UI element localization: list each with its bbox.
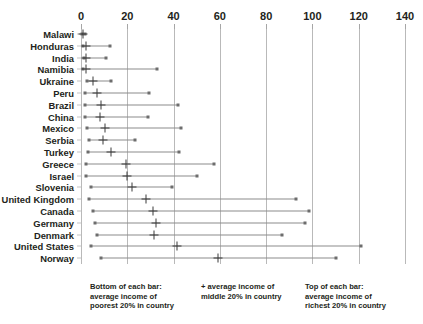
gridline-100 <box>312 28 313 264</box>
x-tick-mark-40 <box>174 24 175 29</box>
x-tick-label-0: 0 <box>78 10 84 22</box>
marker-middle <box>81 41 90 50</box>
marker-richest <box>177 103 180 106</box>
plot-area <box>81 28 405 264</box>
marker-middle <box>213 254 222 263</box>
marker-richest <box>281 233 284 236</box>
range-line <box>86 175 197 176</box>
marker-middle <box>122 159 131 168</box>
gridline-0 <box>81 28 82 264</box>
marker-richest <box>304 221 307 224</box>
marker-poorest <box>86 151 89 154</box>
marker-poorest <box>84 92 87 95</box>
legend-bottom-line1: Bottom of each bar: <box>90 282 190 292</box>
range-line <box>83 69 157 70</box>
marker-middle <box>149 230 158 239</box>
marker-richest <box>360 245 363 248</box>
category-label-honduras: Honduras <box>30 40 74 51</box>
range-line <box>86 163 214 164</box>
category-label-serbia: Serbia <box>45 135 74 146</box>
gridline-140 <box>405 28 406 264</box>
marker-poorest <box>85 127 88 130</box>
gridline-20 <box>127 28 128 264</box>
legend-top-line3: richest 20% in country <box>305 301 415 311</box>
range-line <box>91 246 361 247</box>
x-tick-label-40: 40 <box>167 10 179 22</box>
category-label-peru: Peru <box>53 88 74 99</box>
x-tick-mark-140 <box>405 24 406 29</box>
marker-richest <box>134 139 137 142</box>
category-label-united-states: United States <box>14 241 74 252</box>
marker-poorest <box>84 174 87 177</box>
marker-poorest <box>84 115 87 118</box>
marker-poorest <box>99 257 102 260</box>
category-label-india: India <box>52 52 74 63</box>
marker-richest <box>334 257 337 260</box>
range-line <box>89 199 296 200</box>
marker-middle <box>127 183 136 192</box>
y-axis-category-labels: MalawiHondurasIndiaNamibiaUkrainePeruBra… <box>0 0 78 324</box>
category-label-malawi: Malawi <box>43 29 74 40</box>
category-label-mexico: Mexico <box>42 123 74 134</box>
category-label-namibia: Namibia <box>38 64 74 75</box>
x-tick-mark-0 <box>81 24 82 29</box>
range-line <box>88 152 180 153</box>
income-distribution-chart: MalawiHondurasIndiaNamibiaUkrainePeruBra… <box>0 0 423 324</box>
category-label-united-kingdom: United Kingdom <box>2 194 74 205</box>
marker-richest <box>195 174 198 177</box>
category-label-israel: Israel <box>50 170 75 181</box>
legend-bottom-of-bar: Bottom of each bar: average income of po… <box>90 282 190 311</box>
x-tick-mark-100 <box>312 24 313 29</box>
marker-middle <box>148 207 157 216</box>
category-label-germany: Germany <box>33 217 74 228</box>
marker-poorest <box>94 221 97 224</box>
marker-middle <box>173 242 182 251</box>
gridline-60 <box>220 28 221 264</box>
marker-poorest <box>90 186 93 189</box>
x-tick-mark-120 <box>359 24 360 29</box>
marker-poorest <box>88 198 91 201</box>
x-tick-label-20: 20 <box>121 10 133 22</box>
category-label-greece: Greece <box>42 158 74 169</box>
gridline-40 <box>174 28 175 264</box>
legend-middle-marker: + average income of middle 20% in countr… <box>201 282 301 301</box>
marker-middle <box>82 65 91 74</box>
marker-poorest <box>83 103 86 106</box>
marker-poorest <box>90 245 93 248</box>
category-label-canada: Canada <box>40 206 74 217</box>
marker-richest <box>148 92 151 95</box>
range-line <box>95 222 305 223</box>
legend-top-line2: average income of <box>305 292 415 302</box>
marker-richest <box>171 186 174 189</box>
marker-richest <box>147 115 150 118</box>
marker-middle <box>93 89 102 98</box>
x-tick-mark-20 <box>127 24 128 29</box>
category-label-norway: Norway <box>40 253 74 264</box>
marker-richest <box>295 198 298 201</box>
marker-richest <box>307 210 310 213</box>
marker-middle <box>98 136 107 145</box>
x-tick-label-60: 60 <box>214 10 226 22</box>
marker-middle <box>96 100 105 109</box>
range-line <box>97 234 283 235</box>
marker-richest <box>105 56 108 59</box>
marker-middle <box>123 171 132 180</box>
x-tick-mark-80 <box>266 24 267 29</box>
category-label-denmark: Denmark <box>34 229 74 240</box>
gridline-120 <box>359 28 360 264</box>
category-label-china: China <box>48 111 74 122</box>
legend-bottom-line2: average income of <box>90 292 190 302</box>
x-tick-mark-60 <box>220 24 221 29</box>
category-label-brazil: Brazil <box>48 99 74 110</box>
legend-middle-line2: middle 20% in country <box>201 292 301 302</box>
x-tick-label-120: 120 <box>350 10 368 22</box>
x-tick-label-80: 80 <box>260 10 272 22</box>
marker-richest <box>156 68 159 71</box>
legend-top-of-bar: Top of each bar: average income of riche… <box>305 282 415 311</box>
marker-poorest <box>87 139 90 142</box>
x-tick-label-100: 100 <box>303 10 321 22</box>
marker-middle <box>152 218 161 227</box>
legend-bottom-line3: poorest 20% in country <box>90 301 190 311</box>
category-label-turkey: Turkey <box>44 147 74 158</box>
marker-richest <box>213 162 216 165</box>
